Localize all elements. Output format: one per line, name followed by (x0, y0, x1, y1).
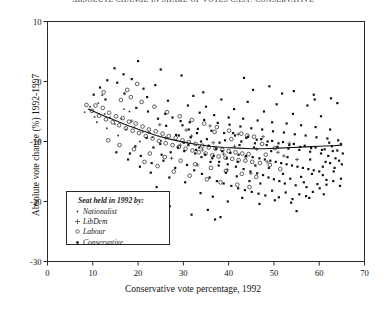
scatter-plot-svg: 100-10-20-30010203040506070 (0, 0, 386, 313)
series-nationalist (84, 94, 162, 142)
x-tick-label: 60 (315, 268, 324, 278)
filled-square-icon (72, 239, 83, 246)
y-axis-title: Absolute vote change (%) 1992-1997 (31, 25, 41, 265)
x-axis-title: Conservative vote percentage, 1992 (0, 284, 386, 294)
x-tick-label: 0 (45, 268, 49, 278)
plus-icon (72, 218, 83, 225)
figure-root: ABSOLUTE CHANGE IN SHARE OF VOTES CAST: … (0, 0, 386, 313)
x-tick-label: 30 (179, 268, 188, 278)
legend-label-nationalist: Nationalist (83, 207, 117, 216)
legend-label-conservative: Conservative (83, 238, 123, 247)
legend-item-libdem: LibDem (72, 217, 165, 227)
legend-item-conservative: Conservative (72, 237, 165, 247)
plot-area: 100-10-20-30010203040506070 (0, 0, 386, 313)
open-circle-icon (72, 228, 83, 235)
x-tick-label: 70 (360, 268, 369, 278)
legend-title: Seat held in 1992 by: (78, 196, 165, 205)
legend-item-nationalist: Nationalist (72, 207, 165, 217)
dot-small-icon (72, 208, 83, 215)
legend-item-labour: Labour (72, 227, 165, 237)
x-tick-label: 40 (224, 268, 233, 278)
x-tick-label: 20 (134, 268, 143, 278)
legend-label-libdem: LibDem (83, 217, 107, 226)
series-labour (85, 82, 283, 189)
legend-label-labour: Labour (83, 227, 105, 236)
legend-box: Seat held in 1992 by: Nationalist LibDem… (66, 191, 170, 245)
x-tick-label: 10 (88, 268, 97, 278)
x-tick-label: 50 (270, 268, 279, 278)
